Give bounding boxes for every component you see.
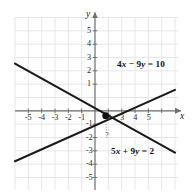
y-tick-label--5: -5 bbox=[86, 173, 92, 181]
y-tick-label-2: 2 bbox=[87, 67, 91, 75]
coordinate-plane-svg bbox=[0, 0, 193, 194]
eq-bottom-operator: + 9 bbox=[120, 146, 135, 156]
x-tick-label-3: 3 bbox=[120, 114, 124, 122]
x-tick-label--5: -5 bbox=[25, 114, 31, 122]
x-tick-label-5: 5 bbox=[147, 114, 151, 122]
y-tick-label--3: -3 bbox=[86, 147, 92, 155]
y-axis-label: y bbox=[86, 10, 90, 20]
x-tick-label--3: -3 bbox=[52, 114, 58, 122]
eq-top-operator: − 9 bbox=[126, 59, 141, 69]
x-tick-label-2: 2 bbox=[107, 114, 111, 122]
y-tick-label-3: 3 bbox=[87, 53, 91, 61]
y-tick-label-1: 1 bbox=[87, 80, 91, 88]
equation-label-bottom: 5x + 9y = 2 bbox=[111, 147, 154, 156]
x-axis-label: x bbox=[180, 112, 184, 122]
x-tick-label--4: -4 bbox=[38, 114, 44, 122]
graph-figure: -5 -4 -3 -2 -1 2 3 4 5 5 4 3 2 1 -1 -2 -… bbox=[0, 0, 193, 194]
y-tick-label--1: -1 bbox=[86, 120, 92, 128]
x-tick-label--2: -2 bbox=[65, 114, 71, 122]
y-tick-label-5: 5 bbox=[87, 27, 91, 35]
y-tick-label-4: 4 bbox=[87, 40, 91, 48]
equation-label-top: 4x − 9y = 10 bbox=[117, 60, 165, 69]
x-tick-label-4: 4 bbox=[133, 114, 137, 122]
eq-top-rhs: = 10 bbox=[145, 59, 165, 69]
y-tick-label--2: -2 bbox=[86, 133, 92, 141]
intersection-question-mark: ? bbox=[105, 132, 108, 140]
y-tick-label--4: -4 bbox=[86, 160, 92, 168]
axis-lines bbox=[15, 13, 181, 191]
x-tick-label--1: -1 bbox=[78, 114, 84, 122]
eq-bottom-rhs: = 2 bbox=[139, 146, 154, 156]
